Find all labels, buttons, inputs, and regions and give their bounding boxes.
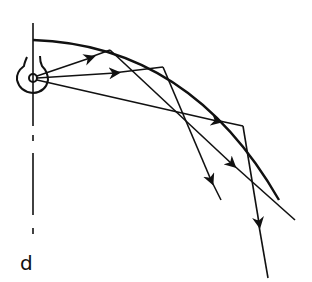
axis-label-d: d (20, 253, 33, 273)
ray-diagram (0, 0, 312, 282)
